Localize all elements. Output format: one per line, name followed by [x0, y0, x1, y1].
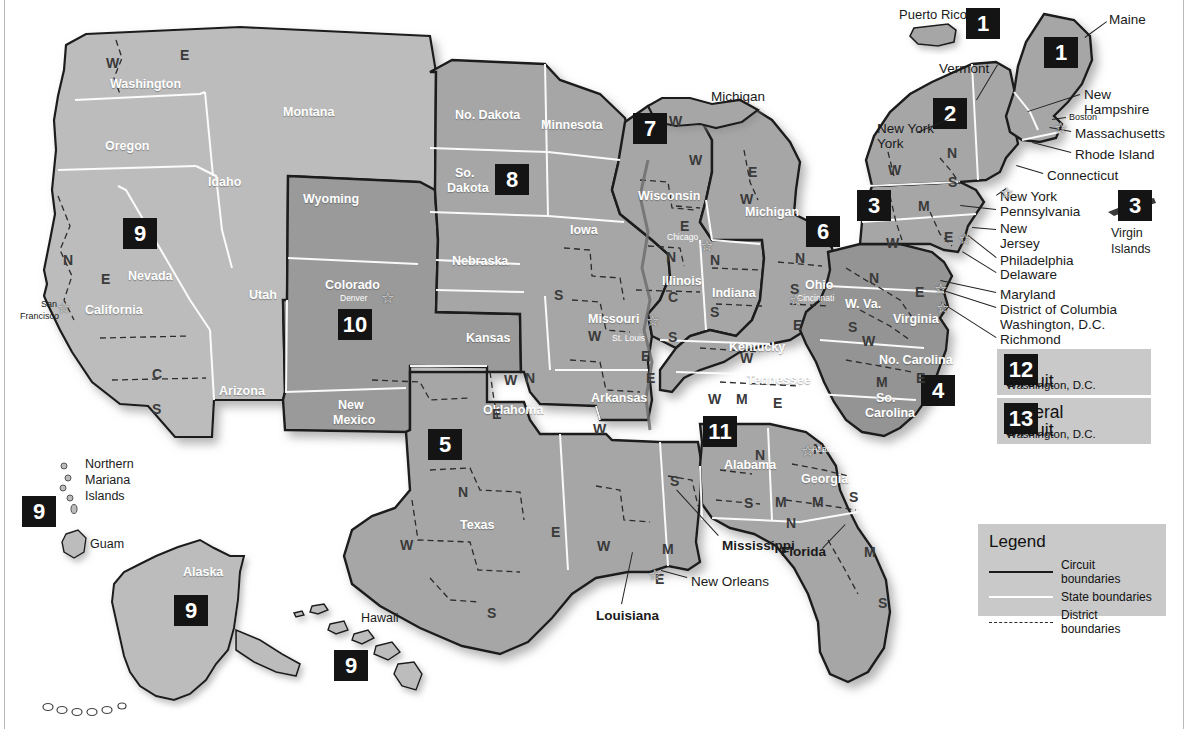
callout-label-massachusetts: Massachusetts — [1075, 127, 1165, 141]
circuit-boundary-swatch — [989, 571, 1053, 573]
state-label-kentucky: Kentucky — [729, 341, 785, 354]
territory-label-virgin: Virgin — [1111, 227, 1143, 240]
badge-9-alaska: 9 — [174, 595, 208, 626]
city-label-boston: Boston — [1069, 113, 1097, 123]
aleutian-islands — [43, 703, 126, 716]
district-division-letter: M — [876, 375, 888, 390]
badge-9-mariana: 9 — [22, 496, 56, 527]
district-division-letter: E — [944, 230, 953, 245]
district-division-letter: N — [525, 371, 535, 386]
district-division-letter: W — [708, 392, 721, 407]
district-division-letter: E — [551, 525, 560, 540]
state-label-new: New — [338, 399, 364, 412]
territory-label-mariana: Mariana — [85, 474, 130, 487]
star-san-francisco: ☆ — [57, 300, 70, 315]
district-division-letter: S — [744, 496, 753, 511]
state-label-wisconsin: Wisconsin — [638, 190, 700, 203]
district-division-letter: E — [915, 285, 924, 300]
district-division-letter: W — [669, 114, 682, 129]
district-division-letter: N — [63, 253, 73, 268]
district-division-letter: M — [864, 545, 876, 560]
district-division-letter: N — [786, 516, 796, 531]
district-division-letter: C — [668, 290, 678, 305]
district-division-letter: N — [947, 146, 957, 161]
callout-label-richmond: Richmond — [1000, 333, 1061, 347]
callout-label-maine: Maine — [1109, 13, 1146, 27]
city-label-san: San — [41, 300, 57, 310]
badge-5: 5 — [428, 429, 462, 460]
callout-label-louisiana: Louisiana — [596, 609, 659, 623]
city-label-denver: Denver — [340, 294, 367, 303]
district-division-letter: N — [710, 253, 720, 268]
badge-3-virgin-islands: 3 — [1118, 190, 1152, 221]
state-label-wyoming: Wyoming — [303, 193, 359, 206]
territory-label-guam: Guam — [90, 538, 124, 551]
legend-label-circuit: Circuit boundaries — [1061, 558, 1157, 586]
state-label-arizona: Arizona — [219, 385, 265, 398]
badge-10: 10 — [338, 309, 372, 340]
state-label-washington: Washington — [110, 78, 181, 91]
region-northern-mariana — [60, 463, 77, 514]
district-division-letter: W — [400, 538, 413, 553]
legend-title: Legend — [989, 532, 1157, 552]
state-label-mexico: Mexico — [333, 414, 375, 427]
state-label-iowa: Iowa — [570, 224, 598, 237]
callout-label-new-york: New York — [877, 122, 934, 136]
state-label-so-: So. — [876, 392, 895, 405]
state-label-kansas: Kansas — [466, 332, 510, 345]
district-division-letter: E — [180, 48, 189, 63]
district-division-letter: S — [554, 288, 563, 303]
badge-6: 6 — [806, 216, 840, 247]
district-division-letter: W — [689, 153, 702, 168]
district-division-letter: W — [504, 373, 517, 388]
district-division-letter: E — [916, 371, 925, 386]
state-label-indiana: Indiana — [712, 287, 756, 300]
district-division-letter: S — [878, 596, 887, 611]
district-division-letter: S — [710, 305, 719, 320]
callout-label-new: New — [1000, 222, 1027, 236]
badge-9-nevada: 9 — [123, 218, 157, 249]
state-label-colorado: Colorado — [325, 279, 380, 292]
district-division-letter: M — [736, 392, 748, 407]
state-label-so-: So. — [455, 167, 474, 180]
state-label-georgia: Georgia — [801, 473, 848, 486]
city-label-chicago: Chicago — [667, 233, 698, 242]
state-label-w-va-: W. Va. — [845, 298, 881, 311]
district-division-letter: S — [487, 606, 496, 621]
legend-row-circuit: Circuit boundaries — [989, 558, 1157, 586]
state-label-minnesota: Minnesota — [541, 119, 603, 132]
callout-label-washington-d-c-: Washington, D.C. — [1000, 318, 1105, 332]
district-division-letter: E — [773, 396, 782, 411]
callout-label-jersey: Jersey — [1000, 237, 1040, 251]
callout-label-connecticut: Connecticut — [1047, 169, 1118, 183]
star-st-louis: ☆ — [646, 313, 659, 328]
state-label-montana: Montana — [283, 106, 334, 119]
badge-1-puerto-rico: 1 — [966, 8, 1000, 39]
legend-row-district: District boundaries — [989, 608, 1157, 636]
city-label-atlanta: Atlanta — [812, 445, 838, 454]
state-label-nevada: Nevada — [128, 270, 172, 283]
district-division-letter: E — [646, 371, 655, 386]
district-division-letter: W — [740, 192, 753, 207]
district-division-letter: N — [869, 271, 879, 286]
district-division-letter: S — [668, 330, 677, 345]
state-label-alaska: Alaska — [183, 566, 223, 579]
district-division-letter: E — [641, 349, 650, 364]
district-division-letter: S — [670, 474, 679, 489]
district-division-letter: W — [862, 334, 875, 349]
legend-label-district: District boundaries — [1061, 608, 1157, 636]
state-label-idaho: Idaho — [208, 176, 241, 189]
district-division-letter: M — [662, 542, 674, 557]
state-label-tennessee: Tennessee — [747, 374, 811, 387]
district-division-letter: N — [458, 485, 468, 500]
state-boundary-swatch — [989, 596, 1053, 598]
region-alaska-panhandle — [236, 630, 300, 676]
state-label-michigan: Michigan — [745, 206, 799, 219]
star-chicago: ☆ — [700, 238, 713, 253]
city-label-st-louis: St. Louis — [612, 334, 645, 343]
callout-label-new: New — [1084, 88, 1111, 102]
state-label-nebraska: Nebraska — [452, 255, 508, 268]
star-atlanta: ☆ — [801, 443, 814, 458]
state-label-utah: Utah — [249, 289, 277, 302]
state-label-virginia: Virginia — [893, 313, 939, 326]
